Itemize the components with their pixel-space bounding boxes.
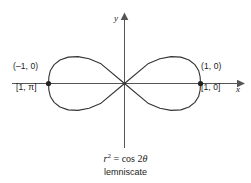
- right-vertex-cartesian-label: (1, 0): [201, 61, 221, 72]
- caption-equation-rest: = cos 2: [111, 153, 142, 164]
- caption-equation-theta: θ: [142, 153, 147, 164]
- figure-caption: r2 = cos 2θ lemniscate: [0, 150, 251, 178]
- right-vertex-polar-label: [1, 0]: [201, 82, 221, 93]
- vertex-point-left: [46, 81, 51, 86]
- left-vertex-polar-label: [1, π]: [16, 82, 37, 93]
- x-axis-label: x: [236, 84, 240, 94]
- caption-curve-name: lemniscate: [0, 166, 251, 178]
- caption-equation: r2 = cos 2θ: [0, 150, 251, 165]
- left-vertex-cartesian-label: (–1, 0): [13, 61, 38, 72]
- y-axis-label: y: [114, 13, 118, 23]
